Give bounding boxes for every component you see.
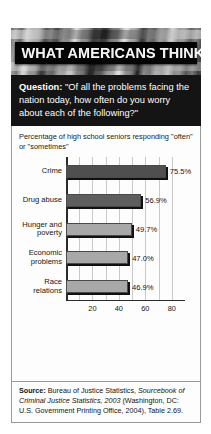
page-title: WHAT AMERICANS THINK [15,44,201,62]
bar: 47.0% [66,251,128,264]
bar-value-label: 75.5% [170,167,192,176]
header-photo-flag-background: WHAT AMERICANS THINK [11,28,201,75]
source-part1: Bureau of Justice Statistics, [46,386,138,395]
bar-rows: Crime75.5%Drug abuse56.9%Hunger and pove… [19,157,185,301]
bar-value-label: 46.9% [132,282,154,291]
x-tick-label: 80 [168,304,176,313]
bar: 49.7% [66,223,132,236]
source-label: Source: [19,386,46,395]
question-block: Question: "Of all the problems facing th… [11,75,201,126]
x-tick-label: 60 [141,304,149,313]
bar-row: Race relations46.9% [19,276,185,297]
bar-value-label: 56.9% [145,196,167,205]
bar-row: Crime75.5% [19,161,185,182]
bar-category-label: Economic problems [19,249,66,266]
question-label: Question: [19,82,62,92]
bar-category-label: Race relations [19,278,66,295]
bar-value-label: 47.0% [132,253,154,262]
bar-row: Economic problems47.0% [19,247,185,268]
source-note: Source: Bureau of Justice Statistics, So… [11,382,201,422]
bar: 75.5% [66,165,166,178]
x-axis-ticks: 20406080 [66,303,185,317]
bar-category-label: Crime [19,167,66,176]
bar-row: Hunger and poverty49.7% [19,219,185,240]
bar-category-label: Hunger and poverty [19,221,66,238]
chart-subtitle: Percentage of high school seniors respon… [19,132,193,152]
bar-chart-plot: Crime75.5%Drug abuse56.9%Hunger and pove… [19,157,193,317]
figure-container: WHAT AMERICANS THINK Question: "Of all t… [11,28,201,414]
bar-track: 56.9% [66,190,185,211]
bar-track: 75.5% [66,161,185,182]
bar-track: 49.7% [66,219,185,240]
bar-track: 47.0% [66,247,185,268]
flag-stripe [11,30,201,39]
bar: 56.9% [66,194,141,207]
bar-value-label: 49.7% [136,225,158,234]
x-tick-label: 40 [115,304,123,313]
title-banner: WHAT AMERICANS THINK [15,42,197,64]
chart-card: Percentage of high school seniors respon… [11,126,201,382]
x-tick-label: 20 [88,304,96,313]
bar-category-label: Drug abuse [19,196,66,205]
bar-track: 46.9% [66,276,185,297]
bar-row: Drug abuse56.9% [19,190,185,211]
bar: 46.9% [66,280,128,293]
